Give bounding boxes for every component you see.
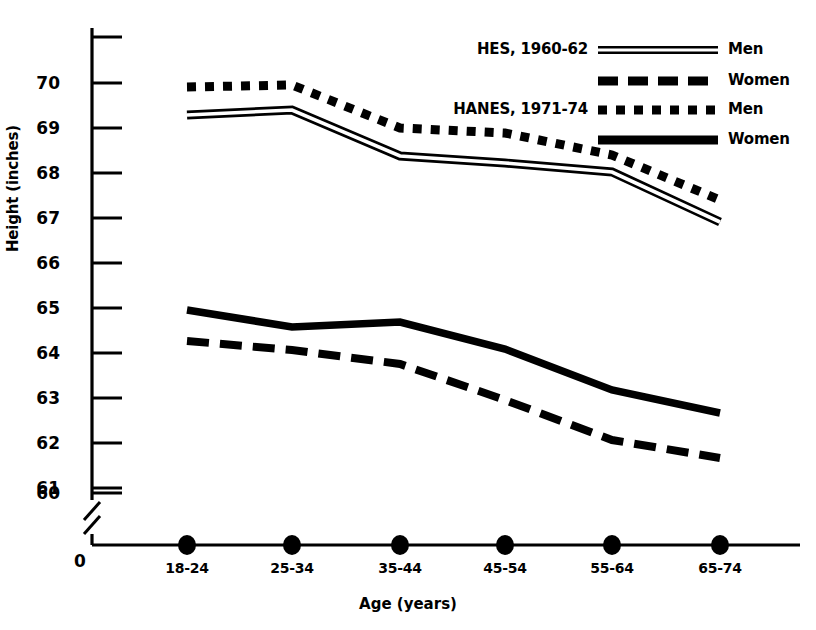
legend-label-hes-women: Women xyxy=(728,71,790,89)
legend-label-hes-men: Men xyxy=(728,40,763,58)
legend-group-hes: HES, 1960-62 xyxy=(378,40,588,58)
legend-label-hanes-men: Men xyxy=(728,100,763,118)
x-tick-45-54: 45-54 xyxy=(460,560,550,576)
x-tick-35-44: 35-44 xyxy=(355,560,445,576)
y-axis-break-symbol xyxy=(84,502,100,534)
x-tick-55-64: 55-64 xyxy=(567,560,657,576)
y-axis-ticks xyxy=(92,37,122,493)
height-by-age-line-chart xyxy=(0,0,816,630)
y-tick-60: 60 xyxy=(14,485,60,502)
x-axis-title: Age (years) xyxy=(0,595,816,613)
y-tick-64: 64 xyxy=(20,345,60,362)
x-tick-65-74: 65-74 xyxy=(675,560,765,576)
y-axis-title: Height (inches) xyxy=(4,52,28,252)
origin-label: 0 xyxy=(60,551,100,571)
legend-label-hanes-women: Women xyxy=(728,130,790,148)
series-hanes-women xyxy=(187,310,720,413)
x-tick-25-34: 25-34 xyxy=(247,560,337,576)
y-tick-63: 63 xyxy=(20,390,60,407)
y-tick-65: 65 xyxy=(20,300,60,317)
y-tick-62: 62 xyxy=(20,435,60,452)
x-tick-18-24: 18-24 xyxy=(142,560,232,576)
y-tick-66: 66 xyxy=(20,255,60,272)
legend-group-hanes: HANES, 1971-74 xyxy=(378,100,588,118)
